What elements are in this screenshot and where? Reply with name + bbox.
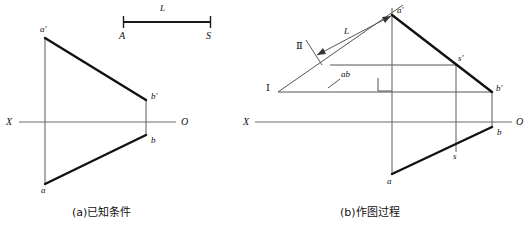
panel-b-dimension-L xyxy=(306,16,391,65)
panel-b-caption: (b)作图过程 xyxy=(340,203,400,219)
dimension-arrow-head-upper xyxy=(382,16,391,23)
panel-b-dimension-length-label: L xyxy=(344,27,349,36)
panel-a-graphics xyxy=(19,16,211,184)
panel-b-axis-o-label: O xyxy=(516,117,523,127)
right-angle-marker xyxy=(378,78,392,91)
panel-b-point-label-b: b xyxy=(497,128,502,137)
panel-b-segment-ab-prime xyxy=(392,15,492,92)
dimension-arrow-head-lower xyxy=(317,48,326,55)
scale-bar-group xyxy=(123,16,211,28)
technical-drawing-figure: L A S X O a' b' b a (a)已知条件 X O L Ⅱ Ⅰ ab… xyxy=(0,0,529,228)
panel-a-axis-x-label: X xyxy=(6,117,12,127)
panel-b-point-label-s: s xyxy=(453,152,457,161)
panel-b-point-label-a: a xyxy=(387,177,392,186)
panel-a-point-label-b-prime: b' xyxy=(151,92,157,101)
panel-b-point-label-b-prime: b' xyxy=(496,84,502,93)
panel-a-point-label-b: b xyxy=(151,136,156,145)
panel-b-segment-ab xyxy=(392,127,492,174)
panel-a-point-label-a-prime: a' xyxy=(40,25,46,34)
panel-a-axis-o-label: O xyxy=(181,117,188,127)
panel-a-segment-ab xyxy=(45,135,146,184)
panel-b-axis-x-label: X xyxy=(243,117,249,127)
panel-b-point-label-s-prime: s' xyxy=(458,54,463,63)
scale-bar-end-label: S xyxy=(206,31,211,41)
scale-bar-length-label: L xyxy=(160,4,165,13)
dimension-line-L xyxy=(317,16,391,55)
panel-b-graphics xyxy=(255,5,512,174)
figure-canvas xyxy=(0,0,529,228)
panel-a-point-label-a: a xyxy=(41,186,46,195)
scale-bar-start-label: A xyxy=(119,31,125,41)
panel-b-ab-leader-line xyxy=(328,79,340,88)
panel-a-caption: (a)已知条件 xyxy=(72,203,131,219)
panel-b-roman-two-label: Ⅱ xyxy=(296,41,303,51)
panel-b-projection-label-ab: ab xyxy=(341,70,350,79)
panel-a-segment-ab-prime xyxy=(45,38,146,100)
panel-b-roman-one-label: Ⅰ xyxy=(266,83,270,93)
panel-b-point-label-a-prime: a' xyxy=(397,6,403,15)
